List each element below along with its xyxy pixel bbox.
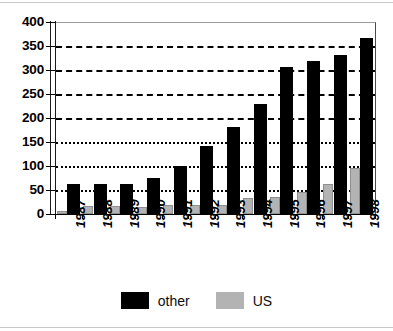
y-axis-tick-100: [46, 166, 55, 167]
x-axis-tick-1992: [188, 214, 189, 219]
x-axis-tick-1993: [215, 214, 216, 219]
x-axis-tick-1991: [162, 214, 163, 219]
x-axis-label-1998: 1998: [368, 174, 381, 228]
y-axis-tick-350: [46, 46, 55, 47]
gray-square-swatch: [216, 292, 244, 309]
y-axis-label-150: 150: [4, 135, 44, 149]
gridline-100: [56, 166, 375, 168]
y-axis-tick-250: [46, 94, 55, 95]
y-axis-label-50: 50: [4, 183, 44, 197]
legend-label-us: US: [253, 294, 272, 308]
y-axis-tick-300: [46, 70, 55, 71]
x-axis-tick-end: [375, 214, 376, 219]
x-axis-tick-1996: [295, 214, 296, 219]
gridline-200: [56, 118, 375, 120]
x-axis-tick-1994: [242, 214, 243, 219]
x-axis-label-1996: 1996: [314, 174, 327, 228]
y-axis-tick-200: [46, 118, 55, 119]
y-axis-tick-0: [46, 214, 55, 215]
x-axis-label-1990: 1990: [154, 174, 167, 228]
x-axis-tick-1988: [82, 214, 83, 219]
x-axis-tick-1997: [322, 214, 323, 219]
y-axis-label-100: 100: [4, 159, 44, 173]
gridline-350: [56, 46, 375, 48]
y-axis-tick-400: [46, 22, 55, 23]
x-axis-tick-1995: [268, 214, 269, 219]
legend-label-other: other: [158, 294, 190, 308]
y-axis-label-300: 300: [4, 63, 44, 77]
gridline-150: [56, 142, 375, 144]
bar-chart-figure: 050100150200250300350400 198719881989199…: [0, 0, 393, 331]
x-axis-label-1993: 1993: [234, 174, 247, 228]
x-axis-tick-1990: [135, 214, 136, 219]
black-square-swatch: [121, 292, 149, 309]
y-axis-label-400: 400: [4, 15, 44, 29]
y-axis-line-inner: [55, 21, 56, 215]
y-axis-label-0: 0: [4, 207, 44, 221]
x-axis-label-1991: 1991: [181, 174, 194, 228]
legend-entry-us: US: [216, 292, 272, 309]
x-axis-label-1989: 1989: [128, 174, 141, 228]
x-axis-label-1994: 1994: [261, 174, 274, 228]
chart-legend: other US: [0, 292, 393, 309]
x-axis-tick-1998: [348, 214, 349, 219]
y-axis-tick-150: [46, 142, 55, 143]
x-axis-label-1992: 1992: [208, 174, 221, 228]
y-axis-label-200: 200: [4, 111, 44, 125]
gridline-300: [56, 70, 375, 72]
x-axis-label-1995: 1995: [288, 174, 301, 228]
y-axis-label-250: 250: [4, 87, 44, 101]
x-axis-label-1988: 1988: [101, 174, 114, 228]
y-axis-tick-50: [46, 190, 55, 191]
gridline-250: [56, 94, 375, 96]
x-axis-tick-1989: [108, 214, 109, 219]
x-axis-tick-1987: [55, 214, 56, 219]
y-axis-label-350: 350: [4, 39, 44, 53]
x-axis-label-1987: 1987: [74, 174, 87, 228]
legend-entry-other: other: [121, 292, 190, 309]
bar-us-1987: [57, 211, 67, 214]
x-axis-label-1997: 1997: [341, 174, 354, 228]
